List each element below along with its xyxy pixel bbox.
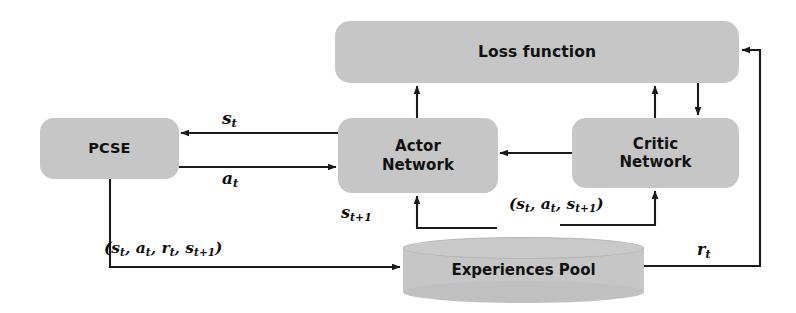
node-pcse-label: PCSE [88, 140, 130, 158]
node-experiences-pool-label-wrap: Experiences Pool [403, 237, 644, 303]
trans-s: s [111, 238, 120, 257]
edge-label-reward-sub: t [705, 248, 710, 261]
trans-s2-sub: t+1 [194, 246, 215, 258]
trans-r: r [161, 238, 169, 257]
diagram-canvas: Loss function Actor Network Critic Netwo… [0, 0, 796, 313]
node-loss-function-label: Loss function [478, 43, 596, 62]
trans-comma2: , [151, 238, 162, 257]
tuple-comma2: , [556, 194, 567, 213]
node-experiences-pool[interactable]: Experiences Pool [403, 237, 644, 303]
edge-pool-to-actor [417, 196, 497, 228]
trans-comma1: , [125, 238, 136, 257]
tuple-s2: s [566, 194, 575, 213]
edge-label-next-state-sub: t+1 [350, 211, 372, 224]
trans-close: ) [215, 238, 222, 257]
tuple-a: a [541, 194, 551, 213]
edge-label-next-state: st+1 [341, 203, 372, 224]
tuple-close: ) [596, 194, 603, 213]
edge-label-next-state-base: s [341, 203, 350, 222]
node-critic-network-label: Critic Network [619, 135, 691, 172]
tuple-s2-sub: t+1 [575, 202, 596, 214]
node-pcse[interactable]: PCSE [40, 118, 179, 179]
node-experiences-pool-label: Experiences Pool [451, 261, 595, 279]
edge-label-action: at [222, 168, 238, 190]
tuple-s: s [516, 194, 525, 213]
tuple-comma1: , [530, 194, 541, 213]
edge-label-action-base: a [222, 168, 233, 188]
trans-a: a [136, 238, 146, 257]
node-critic-network[interactable]: Critic Network [572, 118, 739, 188]
edge-label-state-base: s [222, 108, 232, 128]
trans-comma3: , [175, 238, 186, 257]
node-actor-network[interactable]: Actor Network [338, 118, 498, 193]
edge-label-state: st [222, 108, 237, 130]
node-loss-function[interactable]: Loss function [335, 21, 739, 83]
edge-label-transition-tuple: (st, at, rt, st+1) [104, 238, 222, 258]
node-actor-network-label: Actor Network [382, 137, 454, 174]
edge-label-reward: rt [697, 240, 710, 261]
trans-s2: s [185, 238, 194, 257]
edge-label-action-sub: t [233, 176, 238, 190]
edge-label-critic-tuple: (st, at, st+1) [509, 194, 604, 214]
edge-label-state-sub: t [232, 116, 237, 130]
